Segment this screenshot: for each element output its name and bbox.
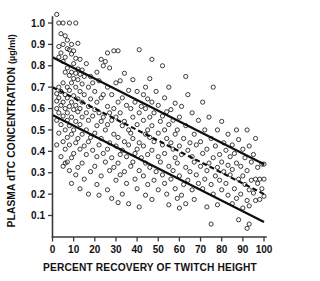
data-point — [116, 49, 120, 53]
data-point — [245, 168, 249, 172]
data-point — [80, 161, 84, 165]
data-point — [213, 174, 217, 178]
data-point — [112, 132, 116, 136]
data-point — [239, 192, 243, 196]
x-tick-label-50: 50 — [153, 244, 165, 255]
data-point — [177, 206, 181, 210]
data-point — [211, 156, 215, 160]
data-point — [203, 177, 207, 181]
data-point — [93, 164, 97, 168]
data-point — [262, 194, 266, 198]
data-point — [105, 51, 109, 55]
data-point — [226, 132, 230, 136]
data-point — [148, 77, 152, 81]
data-point — [108, 111, 112, 115]
data-point — [232, 151, 236, 155]
data-point — [78, 147, 82, 151]
data-point — [131, 115, 135, 119]
data-point — [57, 44, 61, 48]
data-point — [135, 123, 139, 127]
data-point — [122, 71, 126, 75]
data-point — [194, 173, 198, 177]
data-point — [228, 173, 232, 177]
data-point — [74, 85, 78, 89]
data-point — [224, 181, 228, 185]
data-point — [201, 151, 205, 155]
data-point — [146, 128, 150, 132]
data-point — [86, 85, 90, 89]
data-point — [247, 188, 251, 192]
data-point — [137, 48, 141, 52]
data-point — [61, 21, 65, 25]
data-point — [76, 110, 80, 114]
data-point — [69, 115, 73, 119]
data-point — [99, 119, 103, 123]
data-point — [143, 106, 147, 110]
data-point — [173, 187, 177, 191]
data-point — [230, 167, 234, 171]
data-point — [173, 132, 177, 136]
data-point — [116, 100, 120, 104]
data-point — [82, 144, 86, 148]
data-point — [190, 111, 194, 115]
data-point — [118, 152, 122, 156]
data-point — [226, 163, 230, 167]
data-point — [67, 73, 71, 77]
data-point — [95, 70, 99, 74]
data-point — [162, 128, 166, 132]
data-point — [63, 55, 67, 59]
data-point — [141, 93, 145, 97]
data-point — [99, 57, 103, 61]
data-point — [177, 144, 181, 148]
data-point — [55, 91, 59, 95]
x-tick-label-10: 10 — [68, 244, 80, 255]
data-point — [137, 205, 141, 209]
data-point — [249, 160, 253, 164]
x-tick-label-0: 0 — [50, 244, 56, 255]
data-point — [209, 182, 213, 186]
data-point — [179, 193, 183, 197]
data-point — [131, 160, 135, 164]
data-point — [253, 177, 257, 181]
data-point — [57, 131, 61, 135]
data-point — [258, 197, 262, 201]
x-tick-label-90: 90 — [237, 244, 249, 255]
data-point — [137, 111, 141, 115]
data-point — [69, 132, 73, 136]
y-tick-label-1.0: 1.0 — [31, 18, 45, 29]
data-point — [141, 144, 145, 148]
data-point — [72, 128, 76, 132]
data-point — [69, 52, 73, 56]
y-tick-label-0.8: 0.8 — [31, 60, 45, 71]
data-point — [84, 152, 88, 156]
data-point — [124, 103, 128, 107]
data-point — [184, 202, 188, 206]
data-point — [162, 181, 166, 185]
data-point — [158, 160, 162, 164]
data-point — [198, 164, 202, 168]
x-tick-label-100: 100 — [256, 244, 273, 255]
data-point — [67, 143, 71, 147]
data-point — [146, 97, 150, 101]
data-point — [173, 156, 177, 160]
data-point — [55, 106, 59, 110]
data-point — [122, 140, 126, 144]
data-point — [152, 111, 156, 115]
data-point — [234, 161, 238, 165]
x-axis-title: PERCENT RECOVERY OF TWITCH HEIGHT — [43, 262, 257, 273]
data-point — [237, 137, 241, 141]
data-point — [76, 78, 80, 82]
data-point — [114, 81, 118, 85]
data-point — [215, 165, 219, 169]
data-point — [65, 135, 69, 139]
data-point — [135, 89, 139, 93]
data-point — [154, 89, 158, 93]
data-point — [129, 164, 133, 168]
data-point — [57, 21, 61, 25]
data-point — [69, 156, 73, 160]
data-point — [61, 114, 65, 118]
data-point — [188, 170, 192, 174]
data-point — [162, 96, 166, 100]
data-point — [63, 147, 67, 151]
data-point — [91, 81, 95, 85]
